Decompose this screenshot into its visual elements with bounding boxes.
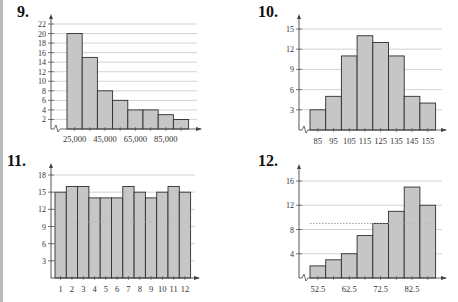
histogram-bar xyxy=(78,186,89,278)
histogram-bar xyxy=(97,91,112,129)
y-tick-label: 9 xyxy=(42,223,46,232)
histogram-12: 48121652.562.572.582.5 xyxy=(229,151,458,302)
histogram-bar xyxy=(128,110,143,129)
x-axis-arrow-icon xyxy=(441,128,447,132)
y-tick-label: 6 xyxy=(42,240,46,249)
histogram-bar xyxy=(179,192,190,278)
x-tick-label: 85 xyxy=(314,136,323,146)
y-tick-label: 15 xyxy=(286,25,294,34)
x-tick-label: 9 xyxy=(149,284,153,294)
histogram-bar xyxy=(113,100,128,129)
y-tick-label: 20 xyxy=(38,30,46,39)
histogram-bar xyxy=(326,96,342,130)
histogram-bar xyxy=(123,186,134,278)
histogram-bar xyxy=(158,115,173,129)
x-tick-label: 10 xyxy=(158,284,167,294)
histogram-bar xyxy=(341,56,357,130)
x-tick-label: 12 xyxy=(181,284,190,294)
histogram-bar xyxy=(420,205,436,278)
y-tick-label: 4 xyxy=(42,106,46,115)
y-tick-label: 15 xyxy=(38,188,46,197)
x-axis-arrow-icon xyxy=(196,127,202,131)
x-tick-label: 135 xyxy=(390,136,403,146)
histogram-bar xyxy=(357,236,373,278)
histogram-bar xyxy=(420,103,436,130)
histogram-9: 24681012141618202225,00045,00065,00085,0… xyxy=(0,0,229,151)
histogram-bar xyxy=(373,223,389,278)
y-tick-label: 3 xyxy=(290,106,294,115)
histogram-bar xyxy=(66,186,77,278)
y-tick-label: 3 xyxy=(42,257,46,266)
y-tick-label: 10 xyxy=(38,77,46,86)
x-tick-label: 5 xyxy=(104,284,108,294)
histogram-bar xyxy=(404,187,420,278)
y-tick-label: 4 xyxy=(290,250,294,259)
y-tick-label: 12 xyxy=(286,201,294,210)
histogram-bar xyxy=(326,260,342,278)
x-tick-label: 155 xyxy=(421,136,434,146)
y-axis-arrow-icon xyxy=(297,164,301,169)
x-tick-label: 3 xyxy=(81,284,85,294)
x-axis-arrow-icon xyxy=(441,276,447,280)
y-tick-label: 18 xyxy=(38,171,46,180)
x-tick-label: 4 xyxy=(92,284,97,294)
y-tick-label: 22 xyxy=(38,20,46,29)
x-tick-label: 72.5 xyxy=(373,284,388,294)
y-tick-label: 12 xyxy=(286,45,294,54)
histogram-bar xyxy=(341,254,357,278)
histogram-10: 36912158595105115125135145155 xyxy=(229,0,458,151)
x-tick-label: 62.5 xyxy=(342,284,357,294)
x-tick-label: 8 xyxy=(138,284,142,294)
x-tick-label: 52.5 xyxy=(310,284,325,294)
histogram-bar xyxy=(357,36,373,130)
x-tick-label: 115 xyxy=(359,136,371,146)
y-tick-label: 6 xyxy=(42,96,46,105)
x-tick-label: 1 xyxy=(59,284,63,294)
histogram-11: 369121518123456789101112 xyxy=(0,151,229,302)
histogram-bar xyxy=(67,34,82,129)
y-tick-label: 2 xyxy=(42,115,46,124)
histogram-bar xyxy=(89,198,100,278)
y-tick-label: 16 xyxy=(286,177,294,186)
x-tick-label: 11 xyxy=(170,284,178,294)
histogram-bar xyxy=(100,198,111,278)
y-tick-label: 6 xyxy=(290,86,294,95)
x-tick-label: 95 xyxy=(329,136,338,146)
x-tick-label: 25,000 xyxy=(63,134,86,144)
y-tick-label: 12 xyxy=(38,68,46,77)
histogram-bar xyxy=(404,96,420,130)
x-tick-label: 7 xyxy=(126,284,130,294)
histogram-bar xyxy=(168,186,179,278)
x-axis-arrow-icon xyxy=(194,276,200,280)
histogram-bar xyxy=(389,211,405,278)
histogram-bar xyxy=(373,42,389,130)
y-tick-label: 16 xyxy=(38,49,46,58)
histogram-bar xyxy=(82,57,97,129)
x-tick-label: 125 xyxy=(374,136,387,146)
y-axis-arrow-icon xyxy=(49,14,53,19)
y-tick-label: 8 xyxy=(42,87,46,96)
y-axis-arrow-icon xyxy=(297,14,301,19)
histogram-bar xyxy=(134,192,145,278)
x-tick-label: 105 xyxy=(343,136,356,146)
y-tick-label: 14 xyxy=(38,58,46,67)
y-tick-label: 8 xyxy=(290,226,294,235)
x-tick-label: 82.5 xyxy=(405,284,420,294)
x-tick-label: 2 xyxy=(70,284,74,294)
x-tick-label: 45,000 xyxy=(93,134,116,144)
x-tick-label: 65,000 xyxy=(124,134,147,144)
histogram-bar xyxy=(112,198,123,278)
x-tick-label: 145 xyxy=(406,136,419,146)
histogram-bar xyxy=(157,192,168,278)
histogram-bar xyxy=(55,192,66,278)
y-tick-label: 9 xyxy=(290,65,294,74)
y-tick-label: 12 xyxy=(38,205,46,214)
x-tick-label: 6 xyxy=(115,284,119,294)
x-tick-label: 85,000 xyxy=(154,134,177,144)
histogram-bar xyxy=(310,110,326,130)
y-axis-arrow-icon xyxy=(49,163,53,168)
histogram-bar xyxy=(389,56,405,130)
y-tick-label: 18 xyxy=(38,39,46,48)
histogram-bar xyxy=(143,110,158,129)
histogram-bar xyxy=(145,198,156,278)
